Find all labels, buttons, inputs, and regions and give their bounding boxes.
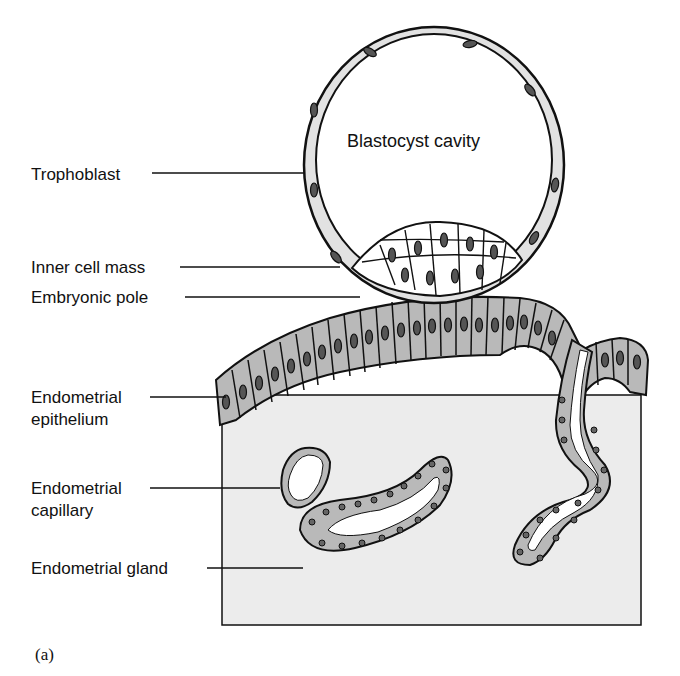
endometrial-epithelium-label-line2: epithelium [31,410,109,430]
panel-label: (a) [35,645,54,665]
endometrial-gland-label: Endometrial gland [31,559,168,579]
trophoblast-label: Trophoblast [31,165,120,185]
endometrial-epithelium-label-line1: Endometrial [31,388,122,408]
embryonic-pole-label: Embryonic pole [31,288,148,308]
endometrial-capillary-label-line2: capillary [31,501,93,521]
blastocyst-cavity-label: Blastocyst cavity [347,131,480,151]
endometrial-capillary-label-line1: Endometrial [31,479,122,499]
inner-cell-mass-label: Inner cell mass [31,258,145,278]
